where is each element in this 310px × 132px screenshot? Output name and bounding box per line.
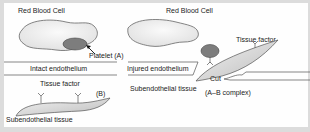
subendothelial-right-label: Subendothelial tissue	[130, 85, 197, 92]
b-label: (B)	[96, 90, 105, 98]
intact-endothelium-label: Intact endothelium	[30, 65, 87, 72]
arrow-head-icon	[86, 45, 91, 49]
platelet-left	[63, 38, 87, 50]
tissue-factor-left-label: Tissue factor	[40, 80, 80, 87]
subendothelial-tissue-left	[16, 98, 110, 116]
platelet-right	[201, 45, 219, 58]
complex-label: (A–B complex)	[205, 89, 251, 97]
rbc-left-label: Red Blood Cell	[18, 7, 65, 14]
platelet-receptor-icon	[207, 62, 213, 65]
platelet-label: Platelet (A)	[89, 52, 124, 60]
tissue-factor-right-label: Tissue factor	[236, 36, 276, 43]
diagram-svg: Red Blood Cell Platelet (A) Intact endot…	[0, 0, 310, 132]
red-blood-cell-right	[128, 20, 199, 47]
subendothelial-left-label: Subendothelial tissue	[6, 116, 73, 123]
diagram: Red Blood Cell Platelet (A) Intact endot…	[0, 0, 310, 132]
injured-endothelium-right	[224, 72, 310, 80]
rbc-right-label: Red Blood Cell	[166, 7, 213, 14]
injured-endothelium-label: Injured endothelium	[127, 65, 189, 73]
cut-label: Cut	[210, 75, 221, 82]
tissue-factor-receptor-icon	[38, 93, 81, 103]
